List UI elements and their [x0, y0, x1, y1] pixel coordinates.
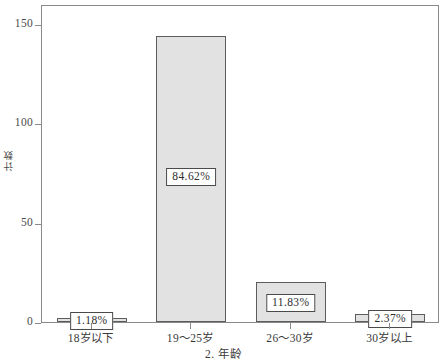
y-axis-title: 计数 [4, 149, 18, 171]
bar-data-label: 84.62% [166, 168, 216, 186]
y-axis-tick-label: 50 [21, 216, 33, 228]
x-axis-tick-mark [290, 323, 291, 329]
y-axis-tick-mark [35, 323, 41, 324]
y-axis-tick-label: 100 [15, 116, 33, 128]
x-axis-tick-label: 30岁以上 [366, 331, 412, 345]
bar-data-label: 11.83% [266, 294, 315, 312]
plot-area: 1.18%84.62%11.83%2.37% [41, 5, 439, 323]
x-axis-tick-label: 26～30岁 [266, 331, 313, 345]
x-axis-tick-mark [91, 323, 92, 329]
x-axis-tick-mark [190, 323, 191, 329]
x-axis-tick-label: 19～25岁 [167, 331, 214, 345]
y-axis-tick-label: 0 [27, 315, 33, 327]
x-axis-title: 2. 年龄 [0, 345, 446, 361]
x-axis-tick-label: 18岁以下 [68, 331, 114, 345]
bar-data-label: 1.18% [70, 312, 114, 330]
y-axis-tick-label: 150 [15, 17, 33, 29]
x-axis-tick-mark [389, 323, 390, 329]
bar-data-label: 2.37% [368, 310, 412, 328]
bar-chart: 计数 150100500 1.18%84.62%11.83%2.37% 18岁以… [0, 0, 446, 363]
